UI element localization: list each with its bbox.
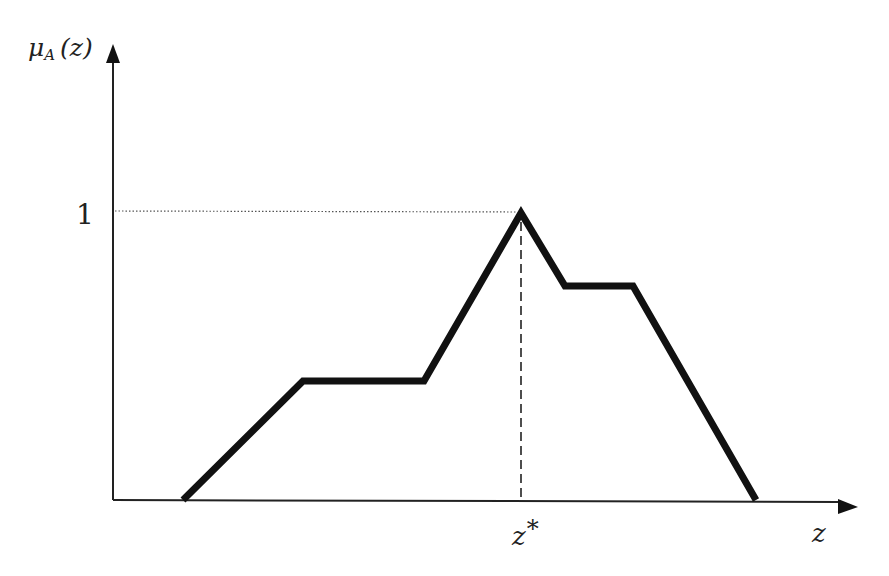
membership-curve [183, 213, 756, 500]
membership-function-diagram: μA(z) 1 z* z [0, 0, 889, 576]
y-tick-label-one: 1 [76, 198, 94, 231]
y-axis-arrow-icon [106, 44, 120, 63]
dotted-guide-one [115, 211, 517, 212]
y-axis-label: μA(z) [28, 33, 93, 64]
x-tick-label-zstar: z* [511, 515, 539, 551]
x-axis [113, 500, 840, 502]
x-axis-label: z [811, 518, 826, 548]
x-axis-arrow-icon [838, 499, 858, 514]
